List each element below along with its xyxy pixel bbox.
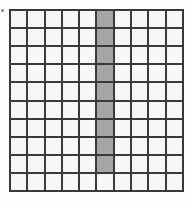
grid-cell	[166, 64, 183, 82]
grid-cell	[10, 82, 27, 100]
grid-cell	[114, 28, 131, 46]
grid-cell	[114, 155, 131, 173]
grid-cell-shaded	[96, 155, 113, 173]
grid-cell	[148, 82, 165, 100]
grid-cell	[131, 28, 148, 46]
grid-cell	[166, 173, 183, 191]
grid-cell	[148, 119, 165, 137]
grid-cell	[27, 46, 44, 64]
grid-cell	[62, 155, 79, 173]
grid-cell	[114, 46, 131, 64]
grid-cell	[131, 46, 148, 64]
grid-cell	[62, 64, 79, 82]
grid-cell	[45, 28, 62, 46]
grid-cell	[45, 82, 62, 100]
grid-cell	[62, 173, 79, 191]
grid-cell	[27, 28, 44, 46]
grid-cell	[45, 46, 62, 64]
grid-cell	[10, 10, 27, 28]
grid-cell	[166, 46, 183, 64]
grid-cell	[79, 82, 96, 100]
margin-mark	[1, 9, 4, 12]
grid-cell	[79, 46, 96, 64]
grid-cell	[10, 28, 27, 46]
grid-cell	[27, 155, 44, 173]
grid-cell	[27, 10, 44, 28]
grid-cell	[131, 82, 148, 100]
grid-cell-shaded	[96, 10, 113, 28]
grid-cell-shaded	[96, 101, 113, 119]
grid-cell-shaded	[96, 28, 113, 46]
grid-cell-shaded	[96, 64, 113, 82]
grid-cell	[62, 137, 79, 155]
grid-cell	[45, 137, 62, 155]
grid-cell	[45, 119, 62, 137]
grid-cell	[79, 155, 96, 173]
grid-cell	[148, 28, 165, 46]
grid-cell	[114, 64, 131, 82]
grid-cell	[114, 101, 131, 119]
grid-cell	[45, 64, 62, 82]
grid-cell	[10, 119, 27, 137]
grid-cell	[148, 155, 165, 173]
grid-cell-shaded	[96, 46, 113, 64]
grid-cell	[79, 119, 96, 137]
grid-cell	[45, 10, 62, 28]
grid-cell	[79, 137, 96, 155]
grid-cell	[131, 10, 148, 28]
grid-cell	[96, 173, 113, 191]
grid-cell	[79, 64, 96, 82]
grid-cell	[27, 173, 44, 191]
grid-cell	[166, 10, 183, 28]
grid-cell	[27, 119, 44, 137]
grid-cell	[10, 155, 27, 173]
grid-cell	[27, 64, 44, 82]
grid-cell	[10, 46, 27, 64]
grid-cell	[79, 101, 96, 119]
grid-cell	[10, 101, 27, 119]
grid-cell	[62, 10, 79, 28]
grid-cell	[79, 173, 96, 191]
grid-cell	[166, 28, 183, 46]
grid-cell	[131, 137, 148, 155]
grid-cell	[45, 173, 62, 191]
grid-cell	[27, 82, 44, 100]
grid-cell	[62, 28, 79, 46]
grid-cell	[166, 155, 183, 173]
grid-cell	[45, 155, 62, 173]
grid-cell	[148, 101, 165, 119]
grid-cell	[131, 173, 148, 191]
grid-cell	[131, 101, 148, 119]
grid-cell	[148, 137, 165, 155]
grid-cell	[114, 10, 131, 28]
grid-cell-shaded	[96, 119, 113, 137]
grid-cell	[131, 155, 148, 173]
grid-cell	[131, 119, 148, 137]
grid-cell	[10, 137, 27, 155]
grid-cell	[79, 28, 96, 46]
grid-cell	[62, 119, 79, 137]
grid-cell	[10, 64, 27, 82]
grid-cell	[10, 173, 27, 191]
grid-cell-shaded	[96, 137, 113, 155]
grid-cell	[166, 101, 183, 119]
grid-cell	[62, 82, 79, 100]
hundred-grid	[9, 9, 184, 192]
grid-cell	[27, 137, 44, 155]
grid-cell	[79, 10, 96, 28]
grid-cell	[114, 137, 131, 155]
grid-cell	[166, 137, 183, 155]
grid-cell	[148, 10, 165, 28]
grid-cell	[131, 64, 148, 82]
grid-cell	[148, 173, 165, 191]
grid-cell	[62, 101, 79, 119]
grid-cell	[27, 101, 44, 119]
grid-cell	[114, 82, 131, 100]
grid-cell-shaded	[96, 82, 113, 100]
grid-cell	[148, 46, 165, 64]
grid-cell	[45, 101, 62, 119]
grid-cell	[114, 119, 131, 137]
grid-cell	[62, 46, 79, 64]
grid-cell	[148, 64, 165, 82]
grid-cell	[166, 119, 183, 137]
